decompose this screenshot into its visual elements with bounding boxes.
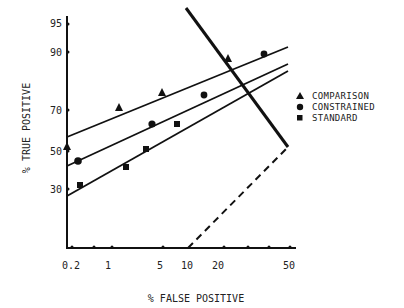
- y-tick-label: 30: [50, 184, 62, 195]
- circle-marker-icon: [297, 104, 303, 110]
- x-tick-label: 1: [105, 260, 111, 271]
- standard-fit-line: [67, 71, 288, 196]
- x-tick-label: 10: [181, 260, 193, 271]
- dashed-diagonal-line: [188, 147, 288, 248]
- thick-diagonal-line: [186, 8, 288, 147]
- y-axis-title: % TRUE POSITIVE: [21, 83, 32, 173]
- x-tick-label: 50: [283, 260, 295, 271]
- y-tick-label: 50: [50, 146, 62, 157]
- legend: COMPARISON CONSTRAINED STANDARD: [296, 91, 375, 123]
- x-tick-label: 5: [157, 260, 163, 271]
- triangle-marker-icon: [296, 92, 304, 99]
- legend-label: STANDARD: [312, 113, 358, 123]
- y-tick-label: 70: [50, 105, 62, 116]
- x-tick-label: 0.2: [62, 260, 80, 271]
- constrained-fit-line: [67, 64, 288, 166]
- y-tick-label: 95: [50, 18, 62, 29]
- legend-label: CONSTRAINED: [312, 102, 375, 112]
- x-tick-label: 20: [212, 260, 224, 271]
- x-axis-title: % FALSE POSITIVE: [148, 293, 244, 304]
- y-tick-label: 90: [50, 47, 62, 58]
- roc-chart: 95 90 70 50 30 0.2 1 5 10 20 50 % FALSE …: [0, 0, 404, 308]
- square-marker-icon: [297, 115, 303, 121]
- legend-label: COMPARISON: [312, 91, 369, 101]
